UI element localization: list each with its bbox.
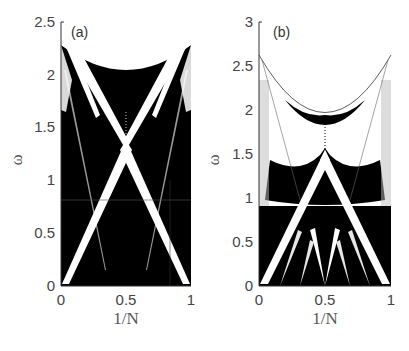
ytick-a-1.5: 1.5: [34, 118, 55, 135]
ytick-a-2: 2: [47, 66, 55, 83]
xtick-b-1: 1: [387, 291, 395, 308]
ytick-b-2.5: 2.5: [232, 57, 253, 74]
ytick-b-2: 2: [245, 101, 253, 118]
ylabel-a: ω: [7, 154, 26, 165]
xtick-a-1: 1: [187, 291, 195, 308]
ytick-b-0.5: 0.5: [232, 233, 253, 250]
ytick-a-0.5: 0.5: [34, 224, 55, 241]
ytick-b-1.5: 1.5: [232, 145, 253, 162]
panel-label-a: (a): [71, 24, 88, 40]
xlabel-a: 1/N: [113, 309, 139, 328]
ytick-a-1: 1: [47, 171, 55, 188]
xlabel-b: 1/N: [312, 309, 338, 328]
ytick-a-0: 0: [47, 277, 55, 294]
xtick-a-0.5: 0.5: [116, 291, 137, 308]
figure: (a) 0 0.5 1 1.5 2 2.5 0 0.5 1 1/N ω: [0, 0, 409, 351]
panel-label-b: (b): [273, 24, 290, 40]
ytick-b-3: 3: [245, 13, 253, 30]
ytick-a-2.5: 2.5: [34, 13, 55, 30]
xtick-a-0: 0: [57, 291, 65, 308]
xtick-b-0.5: 0.5: [315, 291, 336, 308]
ylabel-b: ω: [204, 154, 223, 165]
xtick-b-0: 0: [255, 291, 263, 308]
panel-a: (a) 0 0.5 1 1.5 2 2.5 0 0.5 1 1/N ω: [7, 13, 195, 328]
ytick-b-1: 1: [245, 189, 253, 206]
ytick-b-0: 0: [245, 277, 253, 294]
panel-b: (b) 0 0.5 1 1.5 2 2.5 3 0 0.5 1 1/N ω: [204, 13, 395, 328]
